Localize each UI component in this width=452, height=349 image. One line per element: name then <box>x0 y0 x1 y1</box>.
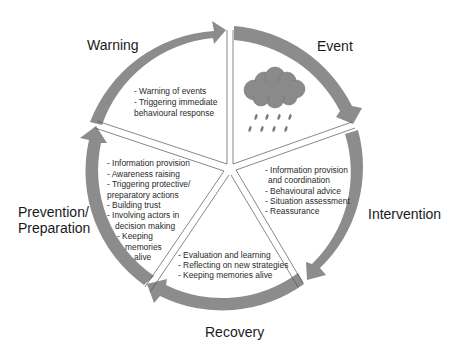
bullet: - Warning of events <box>134 86 206 96</box>
recovery-bullets: - Evaluation and learning - Reflecting o… <box>178 250 288 280</box>
phase-label-prevention-line2: Preparation <box>18 220 90 236</box>
risk-communication-cycle-diagram: Warning Event Intervention Recovery Prev… <box>0 0 452 349</box>
phase-label-event: Event <box>317 38 353 54</box>
bullet: memories <box>125 242 162 252</box>
bullet: - Building trust <box>107 200 161 210</box>
rain-cloud-icon <box>244 67 305 132</box>
bullet: - Awareness raising <box>107 169 180 179</box>
phase-label-prevention-line1: Prevention/ <box>18 204 89 220</box>
bullet: - Triggering protective/ <box>107 179 191 189</box>
phase-label-intervention: Intervention <box>368 206 441 222</box>
bullet: - Reflecting on new strategies <box>178 260 288 270</box>
bullet: preparatory actions <box>107 190 179 200</box>
bullet: - Information provision <box>265 165 348 175</box>
bullet: - Evaluation and learning <box>178 250 271 260</box>
phase-label-warning: Warning <box>87 37 139 53</box>
bullet: and coordination <box>268 175 330 185</box>
bullet: alive <box>134 252 152 262</box>
bullet: - Behavioural advice <box>265 186 341 196</box>
bullet: - Situation assessment <box>265 196 350 206</box>
bullet: - Keeping memories alive <box>178 270 273 280</box>
bullet: - Information provision <box>107 158 190 168</box>
bullet: - Keeping <box>117 231 153 241</box>
bullet: - Reassurance <box>265 206 320 216</box>
phase-label-recovery: Recovery <box>205 324 264 340</box>
raindrops <box>248 114 292 133</box>
bullet: - Triggering immediate <box>134 97 218 107</box>
warning-bullets: - Warning of events - Triggering immedia… <box>134 86 218 118</box>
bullet: - Involving actors in <box>107 210 179 220</box>
intervention-bullets: - Information provision and coordination… <box>265 165 350 216</box>
bullet: decision making <box>115 221 175 231</box>
bullet: behavioural response <box>134 108 214 118</box>
